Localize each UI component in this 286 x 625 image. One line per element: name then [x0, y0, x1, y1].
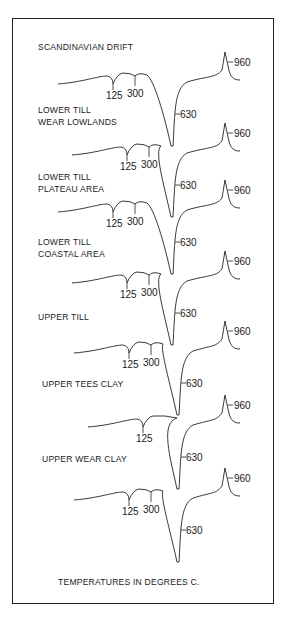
footer-layer: TEMPERATURES IN DEGREES C. [0, 0, 286, 625]
footer-caption: TEMPERATURES IN DEGREES C. [58, 577, 200, 587]
